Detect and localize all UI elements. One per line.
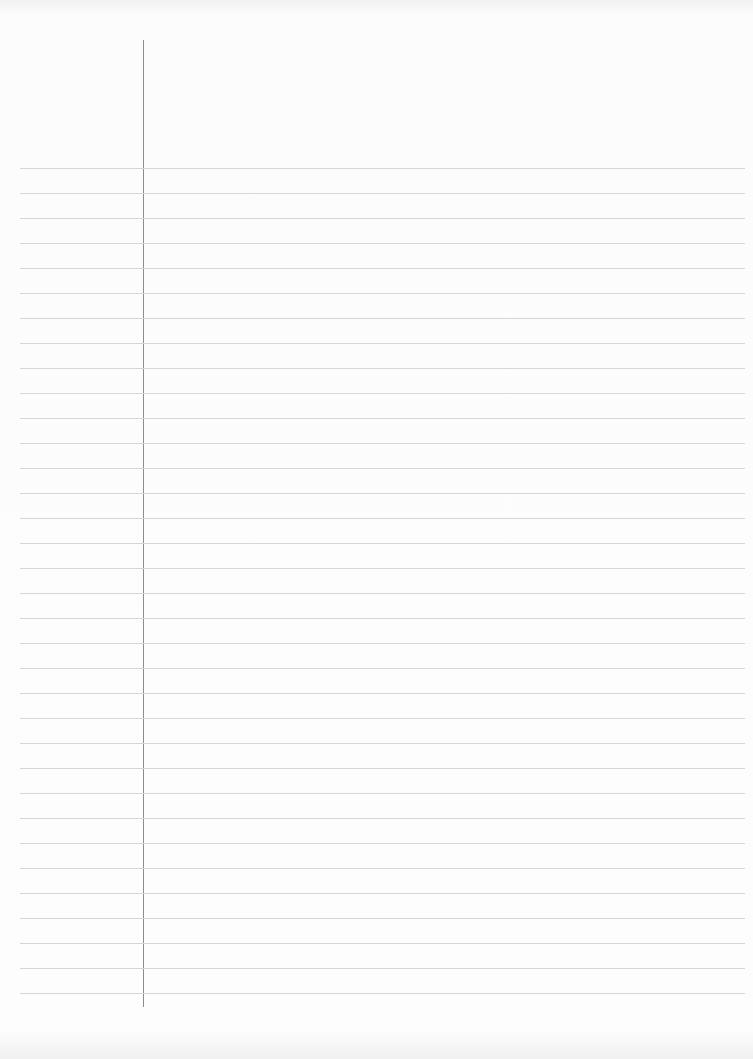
ruled-line <box>20 418 745 419</box>
ruled-line <box>20 918 745 919</box>
ruled-line <box>20 343 745 344</box>
ruled-line <box>20 493 745 494</box>
ruled-line <box>20 168 745 169</box>
ruled-line <box>20 893 745 894</box>
ruled-line <box>20 793 745 794</box>
ruled-line <box>20 818 745 819</box>
ruled-line <box>20 593 745 594</box>
ruled-line <box>20 468 745 469</box>
lined-paper-sheet <box>0 0 753 1059</box>
ruled-line <box>20 543 745 544</box>
ruled-line <box>20 993 745 994</box>
ruled-line <box>20 293 745 294</box>
ruled-line <box>20 218 745 219</box>
ruled-line <box>20 668 745 669</box>
ruled-line <box>20 568 745 569</box>
ruled-line <box>20 618 745 619</box>
ruled-line <box>20 843 745 844</box>
ruled-line <box>20 693 745 694</box>
margin-line <box>143 40 144 1007</box>
ruled-line <box>20 243 745 244</box>
ruled-line <box>20 718 745 719</box>
ruled-line <box>20 318 745 319</box>
ruled-line <box>20 518 745 519</box>
ruled-line <box>20 193 745 194</box>
ruled-line <box>20 968 745 969</box>
ruled-line <box>20 943 745 944</box>
ruled-line <box>20 643 745 644</box>
ruled-line <box>20 743 745 744</box>
ruled-line <box>20 368 745 369</box>
ruled-line <box>20 393 745 394</box>
ruled-line <box>20 268 745 269</box>
ruled-line <box>20 443 745 444</box>
ruled-line <box>20 868 745 869</box>
ruled-line <box>20 768 745 769</box>
